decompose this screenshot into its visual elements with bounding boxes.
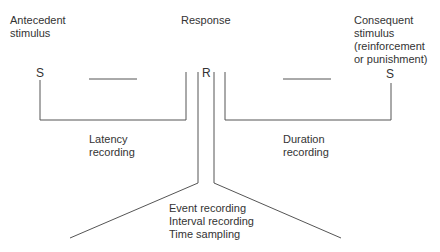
antecedent-s-symbol: S [36,67,44,80]
consequent-s-symbol: S [386,68,394,81]
duration-recording-label: Duration recording [283,133,329,159]
response-label: Response [181,14,231,27]
consequent-stimulus-label: Consequent stimulus (reinforcement or pu… [354,14,427,66]
antecedent-stimulus-label: Antecedent stimulus [10,14,66,40]
latency-recording-label: Latency recording [89,133,135,159]
response-r-symbol: R [202,67,211,80]
event-methods-label: Event recording Interval recording Time … [169,202,254,241]
